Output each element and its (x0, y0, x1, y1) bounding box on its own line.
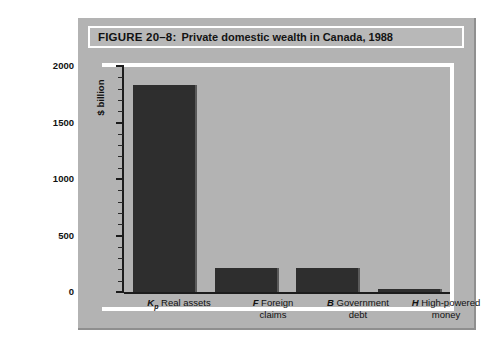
bar-government-debt (296, 268, 360, 292)
x-label-text: Government (337, 297, 389, 308)
tick-mark (116, 65, 124, 67)
y-tick-label: 2000 (34, 61, 74, 71)
tick-mark (116, 291, 124, 293)
y-minor-tick (118, 77, 123, 78)
x-label-text: Foreign (261, 297, 293, 308)
y-tick-label: 1000 (34, 174, 74, 184)
y-minor-tick (118, 202, 123, 203)
y-minor-tick (118, 156, 123, 157)
x-label-foreign-claims: F Foreign claims (228, 297, 318, 320)
tick-mark (116, 122, 124, 124)
x-label-high-powered-money: H High-powered money (392, 297, 494, 320)
figure-box: FIGURE 20–8: Private domestic wealth in … (78, 18, 476, 330)
y-minor-tick (118, 269, 123, 270)
bar-high-powered-money (378, 289, 442, 292)
tick-mark (116, 178, 124, 180)
x-label-text-2: money (432, 309, 461, 320)
x-axis-line (124, 292, 450, 294)
y-minor-tick (118, 111, 123, 112)
y-tick-label: 500 (34, 231, 74, 241)
y-minor-tick (118, 213, 123, 214)
bar-foreign-claims (215, 268, 279, 292)
y-minor-tick (118, 190, 123, 191)
y-minor-tick (118, 168, 123, 169)
y-minor-tick (118, 100, 123, 101)
symbol-b: B (327, 297, 334, 308)
x-label-text-2: debt (349, 309, 368, 320)
x-label-real-assets: Kp Real assets (120, 297, 238, 312)
figure-title-text: Private domestic wealth in Canada, 1988 (181, 31, 393, 43)
y-minor-tick (118, 247, 123, 248)
figure-number-label: FIGURE 20–8: (98, 31, 176, 43)
bar-real-assets (133, 85, 197, 292)
symbol-kp: Kp (147, 297, 158, 308)
x-label-text-2: claims (260, 309, 287, 320)
y-minor-tick (118, 89, 123, 90)
y-axis-label: $ billion (95, 58, 106, 138)
x-label-text: Real assets (161, 297, 211, 308)
y-minor-tick (118, 134, 123, 135)
y-minor-tick (118, 258, 123, 259)
tick-mark (116, 235, 124, 237)
chart-region: $ billion 2000 1500 1000 500 0 (78, 54, 476, 330)
x-axis-labels: Kp Real assets F Foreign claims B Govern… (124, 297, 454, 327)
y-minor-tick (118, 224, 123, 225)
y-minor-tick (118, 281, 123, 282)
figure-title-bar: FIGURE 20–8: Private domestic wealth in … (88, 26, 464, 48)
plot-area (124, 66, 450, 292)
y-tick-label: 1500 (34, 118, 74, 128)
y-tick-label: 0 (34, 287, 74, 297)
symbol-h: H (412, 297, 419, 308)
symbol-f: F (253, 297, 259, 308)
x-label-text: High-powered (421, 297, 480, 308)
y-minor-tick (118, 145, 123, 146)
